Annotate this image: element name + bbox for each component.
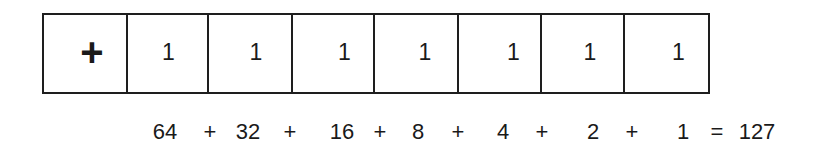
plus-operator: + xyxy=(204,121,217,143)
sum-total: 127 xyxy=(739,121,776,143)
place-value-64: 64 xyxy=(153,121,177,143)
place-value-1: 1 xyxy=(677,121,689,143)
place-value-sum: 64 + 32 + 16 + 8 + 4 + 2 + 1 = 127 xyxy=(0,0,814,153)
place-value-4: 4 xyxy=(497,121,509,143)
place-value-8: 8 xyxy=(412,121,424,143)
place-value-32: 32 xyxy=(236,121,260,143)
plus-operator: + xyxy=(452,121,465,143)
place-value-2: 2 xyxy=(587,121,599,143)
plus-operator: + xyxy=(284,121,297,143)
place-value-16: 16 xyxy=(330,121,354,143)
equals-operator: = xyxy=(711,121,724,143)
plus-operator: + xyxy=(374,121,387,143)
plus-operator: + xyxy=(626,121,639,143)
plus-operator: + xyxy=(536,121,549,143)
